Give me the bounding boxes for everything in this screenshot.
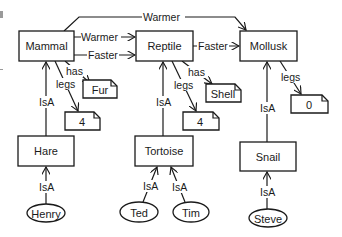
node-reptile[interactable]: Reptile	[136, 31, 193, 61]
edge-label-isa: IsA	[156, 96, 171, 108]
note-fur[interactable]: Fur	[83, 80, 117, 98]
node-label: Tortoise	[145, 145, 184, 157]
note-label: Fur	[92, 84, 109, 96]
edge-label-legs: legs	[174, 79, 193, 91]
semantic-network-diagram: Warmer Warmer Faster Faster has legs has	[0, 0, 342, 237]
edge-tim-tortoise-isa: IsA	[171, 167, 188, 202]
note-shell[interactable]: Shell	[206, 84, 241, 102]
edge-tortoise-reptile-isa: IsA	[155, 62, 172, 136]
instance-label: Ted	[130, 207, 148, 219]
instance-henry[interactable]: Henry	[27, 204, 65, 222]
edge-mammal-mollusk-warmer: Warmer	[64, 11, 246, 31]
edge-mollusk-legs: legs	[280, 61, 301, 94]
edge-reptile-mollusk-faster: Faster	[193, 40, 239, 52]
edge-label-isa: IsA	[39, 96, 54, 108]
node-tortoise[interactable]: Tortoise	[135, 136, 193, 166]
node-mollusk[interactable]: Mollusk	[240, 31, 297, 61]
edge-artifact	[0, 69, 3, 70]
edge-mammal-reptile-warmer: Warmer	[74, 31, 135, 43]
edge-label-isa: IsA	[172, 181, 187, 193]
edge-label-isa: IsA	[260, 186, 275, 198]
edge-ted-tortoise-isa: IsA	[142, 167, 159, 202]
instance-label: Henry	[31, 208, 61, 220]
instance-steve[interactable]: Steve	[249, 209, 287, 227]
note-reptile-legs[interactable]: 4	[183, 112, 219, 130]
node-mammal[interactable]: Mammal	[19, 31, 74, 61]
edge-label-isa: IsA	[260, 102, 275, 114]
note-label: 4	[197, 116, 203, 128]
edge-label-faster: Faster	[88, 49, 118, 61]
node-label: Mammal	[25, 40, 67, 52]
edge-label-has: has	[188, 66, 205, 78]
instance-tim[interactable]: Tim	[173, 202, 209, 222]
edge-hare-mammal-isa: IsA	[38, 62, 55, 136]
node-label: Reptile	[147, 40, 181, 52]
edge-artifact	[0, 11, 3, 18]
edge-label-warmer: Warmer	[81, 31, 118, 43]
edge-steve-snail-isa: IsA	[259, 172, 276, 209]
edge-label-has: has	[66, 65, 83, 77]
node-hare[interactable]: Hare	[18, 136, 74, 166]
instance-ted[interactable]: Ted	[120, 202, 158, 222]
instance-label: Steve	[254, 213, 282, 225]
node-snail[interactable]: Snail	[240, 142, 296, 171]
note-label: 4	[79, 116, 85, 128]
edge-snail-mollusk-isa: IsA	[259, 62, 276, 142]
edge-label-warmer: Warmer	[143, 11, 180, 23]
note-mollusk-legs[interactable]: 0	[291, 95, 328, 113]
edge-label-legs: legs	[56, 78, 75, 90]
edge-label-isa: IsA	[39, 181, 54, 193]
edge-label-isa: IsA	[143, 180, 158, 192]
instance-label: Tim	[182, 207, 200, 219]
note-label: 0	[306, 99, 312, 111]
node-label: Mollusk	[250, 40, 288, 52]
edge-label-faster: Faster	[198, 40, 228, 52]
edge-label-legs: legs	[281, 71, 300, 83]
node-label: Snail	[256, 151, 280, 163]
edge-mammal-reptile-faster: Faster	[74, 49, 135, 61]
node-label: Hare	[34, 145, 58, 157]
note-mammal-legs[interactable]: 4	[65, 112, 100, 130]
note-label: Shell	[211, 88, 235, 100]
edge-henry-hare-isa: IsA	[38, 167, 55, 204]
